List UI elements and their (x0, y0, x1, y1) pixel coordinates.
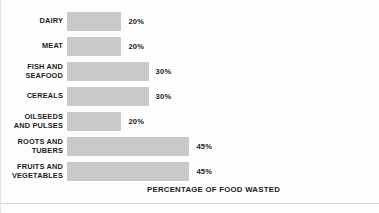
table-row: DAIRY 20% (1, 9, 379, 34)
table-row: ROOTS AND TUBERS 45% (1, 134, 379, 159)
category-label-fish-and-seafood: FISH AND SEAFOOD (1, 63, 67, 80)
bar-track: 20% (67, 37, 379, 56)
table-row: OILSEEDS AND PULSES 20% (1, 109, 379, 134)
bar-track: 30% (67, 62, 379, 81)
bottom-divider (1, 203, 379, 204)
bar-value-roots-and-tubers: 45% (189, 137, 212, 156)
category-label-oilseeds-and-pulses: OILSEEDS AND PULSES (1, 113, 67, 130)
bar-roots-and-tubers (67, 137, 189, 156)
bar-fish-and-seafood (67, 62, 149, 81)
bar-meat (67, 37, 121, 56)
bar-track: 45% (67, 137, 379, 156)
bar-dairy (67, 12, 121, 31)
bar-value-fruits-and-vegetables: 45% (189, 162, 212, 181)
table-row: FRUITS AND VEGETABLES 45% (1, 159, 379, 184)
bar-fruits-and-vegetables (67, 162, 189, 181)
category-label-dairy: DAIRY (1, 17, 67, 26)
bar-track: 20% (67, 112, 379, 131)
bar-value-oilseeds-and-pulses: 20% (121, 112, 144, 131)
category-label-fruits-and-vegetables: FRUITS AND VEGETABLES (1, 163, 67, 180)
chart-plot-area: DAIRY 20% MEAT 20% FISH AND SEAFOOD 30% … (1, 9, 379, 184)
category-label-meat: MEAT (1, 42, 67, 51)
bar-value-meat: 20% (121, 37, 144, 56)
category-label-cereals: CEREALS (1, 92, 67, 101)
bar-cereals (67, 87, 149, 106)
table-row: FISH AND SEAFOOD 30% (1, 59, 379, 84)
bar-value-cereals: 30% (149, 87, 172, 106)
table-row: CEREALS 30% (1, 84, 379, 109)
category-label-roots-and-tubers: ROOTS AND TUBERS (1, 138, 67, 155)
bar-track: 20% (67, 12, 379, 31)
bar-track: 30% (67, 87, 379, 106)
bar-track: 45% (67, 162, 379, 181)
bar-value-dairy: 20% (121, 12, 144, 31)
x-axis-title: PERCENTAGE OF FOOD WASTED (147, 185, 280, 194)
bar-value-fish-and-seafood: 30% (149, 62, 172, 81)
table-row: MEAT 20% (1, 34, 379, 59)
bar-oilseeds-and-pulses (67, 112, 121, 131)
